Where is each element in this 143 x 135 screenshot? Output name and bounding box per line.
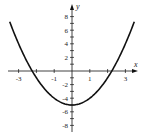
y-tick-label: 8	[65, 13, 69, 21]
x-tick-label: -3	[16, 75, 22, 83]
y-tick-label: 6	[65, 27, 69, 35]
x-tick-label: -1	[51, 75, 57, 83]
y-axis-label: y	[75, 2, 80, 11]
y-tick-label: -8	[62, 122, 68, 130]
parabola-chart: -3-1138642-2-4-6-8 x y	[0, 0, 143, 135]
x-tick-label: 3	[124, 75, 128, 83]
x-tick-label: 1	[88, 75, 92, 83]
y-axis-arrow	[70, 4, 74, 10]
y-tick-label: 4	[65, 40, 69, 48]
y-tick-label: -4	[62, 95, 68, 103]
x-axis-label: x	[133, 60, 138, 69]
y-tick-label: -2	[62, 81, 68, 89]
y-tick-label: -6	[62, 108, 68, 116]
y-tick-label: 2	[65, 54, 69, 62]
x-axis-arrow	[132, 69, 138, 73]
